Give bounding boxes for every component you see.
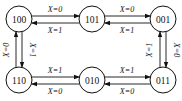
- state-011: 011: [150, 67, 176, 93]
- state-diagram: 100 101 001 110 010 011 X=0 X=1 X=0 X=1: [0, 0, 182, 101]
- transition-label: X=0: [119, 87, 134, 96]
- state-label: 110: [12, 76, 26, 86]
- transition-label: X=0: [119, 5, 134, 14]
- transition-label: X=1: [28, 42, 37, 57]
- transition-label: X=1: [47, 26, 62, 35]
- diagram-canvas: 100 101 001 110 010 011 X=0 X=1 X=0 X=1: [0, 0, 182, 101]
- transition-001-101: X=1: [105, 23, 150, 35]
- transition-label: X=1: [145, 43, 154, 58]
- transition-label: X=0: [47, 87, 62, 96]
- state-label: 001: [156, 15, 171, 25]
- transition-label: X=1: [119, 26, 134, 35]
- transition-label: X=0: [172, 42, 181, 57]
- transition-101-100: X=1: [32, 23, 79, 35]
- state-label: 011: [156, 76, 170, 86]
- transition-110-010: X=1: [32, 66, 79, 77]
- state-label: 100: [12, 15, 27, 25]
- transition-010-110: X=0: [32, 84, 79, 96]
- transition-010-011: X=1: [105, 66, 150, 77]
- transition-011-001: X=1: [145, 32, 160, 67]
- transition-100-101: X=0: [32, 5, 79, 16]
- transition-label: X=1: [119, 66, 134, 75]
- transition-label: X=0: [2, 43, 11, 58]
- transition-label: X=1: [47, 66, 62, 75]
- state-label: 010: [85, 76, 100, 86]
- transition-001-011: X=0: [166, 32, 181, 67]
- transition-100-110: X=1: [22, 32, 37, 67]
- state-010: 010: [79, 67, 105, 93]
- transition-110-100: X=0: [2, 32, 16, 67]
- state-label: 101: [85, 15, 100, 25]
- state-101: 101: [79, 6, 105, 32]
- transition-011-010: X=0: [105, 84, 150, 96]
- state-110: 110: [6, 67, 32, 93]
- transition-101-001: X=0: [105, 5, 150, 16]
- transition-label: X=0: [47, 5, 62, 14]
- state-100: 100: [6, 6, 32, 32]
- state-001: 001: [150, 6, 176, 32]
